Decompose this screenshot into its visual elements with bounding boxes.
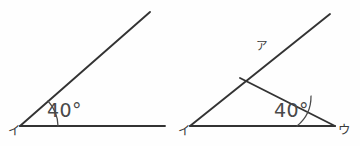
right-angle-label: 40°: [274, 99, 309, 121]
left-upper-ray: [20, 12, 150, 126]
right-vertex-label-u: ウ: [338, 122, 351, 137]
geometry-figures-svg: イ 40° イ ウ ア 40°: [0, 0, 360, 146]
diagram-canvas: イ 40° イ ウ ア 40°: [0, 0, 360, 146]
left-angle-label: 40°: [47, 99, 82, 121]
right-point-label-a: ア: [256, 39, 267, 53]
left-figure-group: [20, 12, 165, 126]
right-vertex-label-i: イ: [178, 123, 191, 138]
right-figure-group: [190, 14, 335, 126]
left-vertex-label-i: イ: [8, 123, 21, 138]
